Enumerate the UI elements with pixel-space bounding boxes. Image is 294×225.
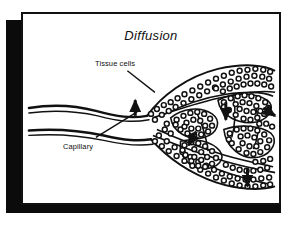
leader-lines bbox=[96, 71, 155, 138]
figure-root: Diffusion bbox=[0, 0, 294, 225]
diagram-panel: Diffusion bbox=[21, 12, 281, 205]
leader-line-tissue-cells bbox=[127, 71, 155, 93]
diffusion-illustration bbox=[23, 14, 279, 203]
label-tissue-cells: Tissue cells bbox=[95, 59, 135, 68]
label-capillary: Capillary bbox=[63, 142, 93, 151]
